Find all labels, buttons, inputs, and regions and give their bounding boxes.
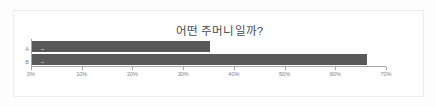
category-tick bbox=[41, 62, 44, 63]
chart-title: 어떤 주머니일까? bbox=[14, 22, 425, 38]
value-tick-label: 30% bbox=[178, 71, 189, 78]
value-tick bbox=[132, 67, 133, 70]
category-tick bbox=[41, 49, 44, 50]
plot-area bbox=[31, 39, 407, 66]
value-tick-label: 70% bbox=[380, 71, 391, 78]
value-tick bbox=[386, 67, 387, 70]
screenshot-root: 어떤 주머니일까? A B 0%10%20%30%40%50%60%70% bbox=[0, 0, 436, 106]
value-tick-label: 50% bbox=[279, 71, 290, 78]
value-tick bbox=[183, 67, 184, 70]
category-label-a: A bbox=[17, 46, 29, 52]
value-tick-label: 40% bbox=[228, 71, 239, 78]
value-tick-label: 0% bbox=[27, 71, 35, 78]
value-tick bbox=[31, 67, 32, 70]
bar-series-a[interactable] bbox=[32, 41, 210, 52]
value-axis-line bbox=[31, 66, 386, 67]
value-tick-label: 20% bbox=[127, 71, 138, 78]
value-tick bbox=[82, 67, 83, 70]
value-tick bbox=[285, 67, 286, 70]
value-tick bbox=[335, 67, 336, 70]
chart-container[interactable]: 어떤 주머니일까? A B 0%10%20%30%40%50%60%70% bbox=[13, 10, 424, 97]
value-tick-label: 10% bbox=[76, 71, 87, 78]
value-tick bbox=[234, 67, 235, 70]
value-tick-label: 60% bbox=[330, 71, 341, 78]
bar-series-b[interactable] bbox=[32, 54, 367, 65]
category-label-b: B bbox=[17, 59, 29, 65]
